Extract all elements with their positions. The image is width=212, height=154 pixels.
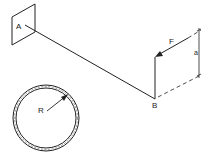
diagram-canvas: A F a B R [0,0,212,154]
label-a: A [16,22,22,31]
ring-outer [13,85,79,151]
dashed-ext-bottom [158,75,201,97]
label-dimension-a: a [194,49,198,56]
ring-middle-dashed [15,87,78,150]
ring-inner [16,88,76,148]
radius-arrow-head-icon [61,94,68,101]
label-f: F [169,37,174,46]
label-b: B [152,101,157,110]
diagram-svg: A F a B R [0,0,212,154]
label-r: R [38,106,44,115]
force-arrow-head-icon [155,51,163,57]
